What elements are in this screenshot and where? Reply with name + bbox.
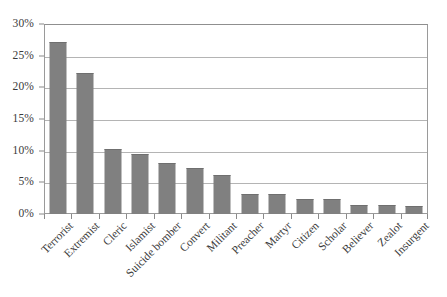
bar-slot (236, 24, 263, 214)
y-axis-tick-label: 0% (18, 208, 34, 220)
bar-slot (291, 24, 318, 214)
bar[interactable] (104, 149, 121, 214)
bar[interactable] (49, 42, 66, 214)
x-axis-tick-mark (236, 214, 237, 219)
bar[interactable] (159, 163, 176, 214)
bar[interactable] (241, 194, 258, 214)
bars-layer (44, 24, 428, 214)
bar[interactable] (186, 168, 203, 214)
x-axis-tick-mark (346, 214, 347, 219)
x-axis-tick-mark (401, 214, 402, 219)
bar[interactable] (214, 175, 231, 214)
x-axis-tick-mark (126, 214, 127, 219)
y-axis: 0%5%10%15%20%25%30% (0, 0, 44, 297)
x-axis-tick-mark (181, 214, 182, 219)
bar-slot (99, 24, 126, 214)
bar-slot (181, 24, 208, 214)
x-axis-labels: TerroristExtremistClericIslamistSuicide … (44, 220, 428, 297)
y-axis-tick-label: 30% (13, 18, 34, 30)
x-axis-tick-mark (373, 214, 374, 219)
x-axis-category-label: Martyr (263, 220, 294, 251)
bar[interactable] (269, 194, 286, 214)
bar[interactable] (406, 206, 423, 214)
bar-slot (209, 24, 236, 214)
bar-slot (154, 24, 181, 214)
bar-slot (318, 24, 345, 214)
bar-slot (126, 24, 153, 214)
x-axis-tick-mark (427, 214, 428, 219)
bar-slot (71, 24, 98, 214)
x-axis-category-label: Convert (177, 220, 211, 254)
bar[interactable] (351, 205, 368, 214)
x-axis-tick-mark (154, 214, 155, 219)
y-axis-tick-label: 10% (13, 145, 34, 157)
x-axis-tick-mark (44, 214, 45, 219)
y-axis-tick-label: 25% (13, 50, 34, 62)
x-axis-tick-mark (263, 214, 264, 219)
x-axis-tick-mark (71, 214, 72, 219)
bar-slot (401, 24, 428, 214)
bar[interactable] (323, 199, 340, 214)
bar-slot (263, 24, 290, 214)
bar[interactable] (131, 154, 148, 214)
bar-slot (44, 24, 71, 214)
y-axis-tick-label: 15% (13, 113, 34, 125)
bar[interactable] (378, 205, 395, 214)
x-axis-tick-mark (99, 214, 100, 219)
x-axis-category-label: Citizen (290, 220, 322, 252)
bar-chart: 0%5%10%15%20%25%30% TerroristExtremistCl… (0, 0, 447, 297)
x-axis-tick-mark (291, 214, 292, 219)
bar-slot (346, 24, 373, 214)
y-axis-tick-label: 20% (13, 82, 34, 94)
bar[interactable] (296, 199, 313, 214)
x-axis-tick-mark (209, 214, 210, 219)
bar-slot (373, 24, 400, 214)
y-axis-tick-label: 5% (18, 177, 34, 189)
bar[interactable] (77, 73, 94, 214)
x-axis-tick-mark (318, 214, 319, 219)
